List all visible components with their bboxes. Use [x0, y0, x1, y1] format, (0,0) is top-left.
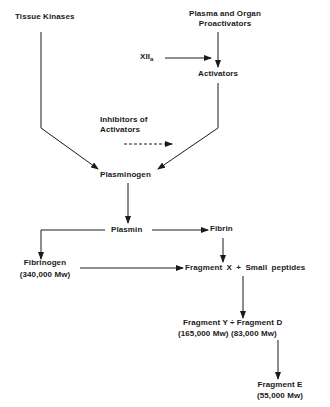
node-plasma-proactivators: Plasma and Organ Proactivators [180, 9, 270, 29]
node-fragment-y-d-label: Fragment Y ÷ Fragment D [178, 318, 282, 328]
node-fibrinogen-mw: (340,000 Mw) [12, 270, 78, 280]
node-activators: Activators [198, 69, 238, 79]
node-xiia: XIIa [140, 52, 154, 64]
node-fragment-y-d: Fragment Y ÷ Fragment D (165,000 Mw) (83… [178, 318, 282, 339]
node-fragment-e-mw: (55,000 Mw) [250, 391, 310, 401]
node-inhibitors-line1: Inhibitors of [100, 115, 148, 125]
fibrinolysis-diagram: Tissue Kinases Plasma and Organ Proactiv… [0, 0, 330, 407]
arrow-plasmin-to-fibrinogen [41, 230, 105, 259]
node-fibrin: Fibrin [210, 224, 233, 234]
arrow-tissue-kinases-to-plasminogen [41, 32, 98, 169]
node-plasmin: Plasmin [111, 225, 142, 235]
connector-lines [0, 0, 330, 407]
node-xiia-main: XII [140, 52, 150, 61]
node-fibrinogen-label: Fibrinogen [12, 258, 78, 268]
node-plasma-proactivators-line1: Plasma and Organ [180, 9, 270, 19]
node-inhibitors-line2: Activators [100, 125, 148, 135]
arrow-activators-to-plasminogen [158, 83, 218, 169]
node-fragment-e: Fragment E (55,000 Mw) [250, 380, 310, 401]
node-fragment-y-d-mw: (165,000 Mw) (83,000 Mw) [178, 329, 282, 339]
node-fragment-e-label: Fragment E [250, 380, 310, 390]
node-plasma-proactivators-line2: Proactivators [180, 19, 270, 29]
node-fibrinogen: Fibrinogen (340,000 Mw) [12, 258, 78, 280]
node-inhibitors-of-activators: Inhibitors of Activators [100, 115, 148, 135]
node-tissue-kinases: Tissue Kinases [15, 12, 75, 22]
node-plasminogen: Plasminogen [100, 170, 151, 180]
node-fragment-x-small-peptides: Fragment X + Small peptides [185, 263, 305, 273]
node-xiia-subscript: a [150, 56, 153, 62]
